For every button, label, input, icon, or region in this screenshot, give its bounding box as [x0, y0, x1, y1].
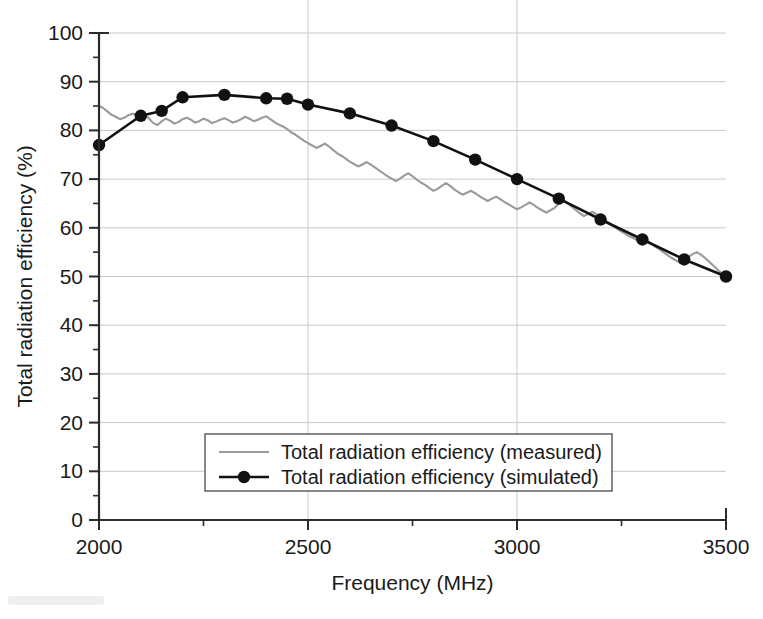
data-point-marker — [469, 153, 481, 165]
x-tick-label: 3500 — [703, 535, 750, 558]
x-tick-label: 2000 — [76, 535, 123, 558]
data-point-marker — [344, 107, 356, 119]
y-tick-label: 90 — [60, 70, 83, 93]
data-point-marker — [678, 253, 690, 265]
x-tick-label: 3000 — [494, 535, 541, 558]
data-point-marker — [260, 92, 272, 104]
data-point-marker — [385, 119, 397, 131]
data-point-marker — [636, 233, 648, 245]
chart-figure: 01020304050607080901002000250030003500Fr… — [0, 0, 763, 619]
radiation-efficiency-chart: 01020304050607080901002000250030003500Fr… — [0, 0, 763, 619]
y-tick-label: 70 — [60, 167, 83, 190]
y-tick-label: 100 — [48, 21, 83, 44]
data-point-marker — [176, 91, 188, 103]
data-point-marker — [511, 173, 523, 185]
x-tick-label: 2500 — [285, 535, 332, 558]
y-axis-title: Total radiation efficiency (%) — [13, 145, 36, 407]
y-tick-label: 60 — [60, 216, 83, 239]
legend-entry-label: Total radiation efficiency (measured) — [281, 441, 602, 463]
y-tick-label: 30 — [60, 362, 83, 385]
data-point-marker — [156, 105, 168, 117]
data-point-marker — [553, 192, 565, 204]
y-tick-label: 10 — [60, 459, 83, 482]
series-line-measured — [99, 106, 726, 276]
y-tick-label: 80 — [60, 118, 83, 141]
x-axis-title: Frequency (MHz) — [331, 571, 493, 594]
data-point-marker — [135, 110, 147, 122]
y-tick-label: 0 — [71, 508, 83, 531]
y-tick-label: 20 — [60, 411, 83, 434]
data-point-marker — [281, 93, 293, 105]
data-point-marker — [218, 89, 230, 101]
legend-entry-label: Total radiation efficiency (simulated) — [281, 466, 599, 488]
y-tick-label: 50 — [60, 265, 83, 288]
data-point-marker — [302, 98, 314, 110]
data-point-marker — [720, 270, 732, 282]
data-point-marker — [427, 135, 439, 147]
data-point-marker — [594, 213, 606, 225]
page-artifact-smudge — [8, 596, 104, 605]
legend-marker-sample — [238, 471, 250, 483]
y-tick-label: 40 — [60, 313, 83, 336]
